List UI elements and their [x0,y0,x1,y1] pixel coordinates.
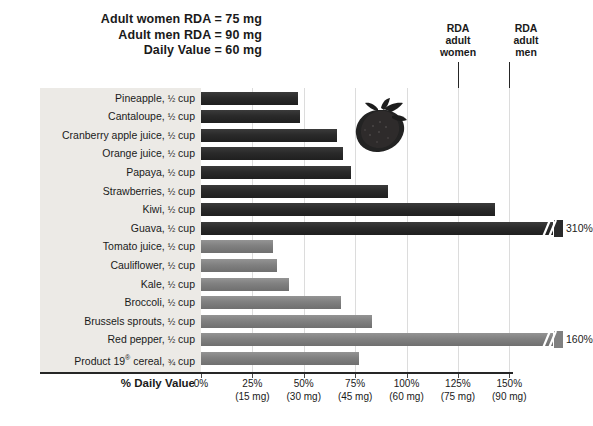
bar[interactable] [201,110,300,123]
strawberry-icon [348,96,414,156]
bar[interactable] [201,333,553,346]
bar[interactable] [201,315,372,328]
tick-milligrams: (60 mg) [379,391,435,404]
chart-header: Adult women RDA = 75 mg Adult men RDA = … [0,12,262,59]
bar[interactable] [201,352,359,365]
bar-row: Pineapple, ½ cup [0,89,593,108]
x-axis-tick-50: 50%(30 mg) [276,378,332,403]
rda-men-line3: men [487,46,565,58]
bar-category-label: Papaya, ½ cup [40,163,195,183]
bar-category-label: Strawberries, ½ cup [40,182,195,202]
bar-category-label: Cranberry apple juice, ½ cup [40,126,195,146]
bar[interactable] [201,92,298,105]
x-axis-tick-25: 25%(15 mg) [224,378,280,403]
rda-women-line2: adult [419,34,497,46]
tick-percent: 100% [379,378,435,391]
rda-women-line1: RDA [419,22,497,34]
x-axis-title: % Daily Value [40,377,195,389]
bar-row: Cranberry apple juice, ½ cup [0,126,593,145]
x-axis-tick-100: 100%(60 mg) [379,378,435,403]
tick-percent: 25% [224,378,280,391]
bar-row: Product 19® cereal, ¾ cup [0,349,593,368]
bar[interactable] [201,147,343,160]
bar-row: Kale, ½ cup [0,275,593,294]
header-line-1: Adult women RDA = 75 mg [0,12,262,28]
rda-adult-men-label: RDA adult men [487,22,565,58]
bar-category-label: Kale, ½ cup [40,275,195,295]
x-axis-tick-125: 125%(75 mg) [430,378,486,403]
tick-percent: 125% [430,378,486,391]
bar-category-label: Orange juice, ½ cup [40,144,195,164]
bar[interactable] [201,166,351,179]
bar-category-label: Pineapple, ½ cup [40,89,195,109]
bar[interactable] [201,129,337,142]
bar-row: Broccoli, ½ cup [0,293,593,312]
bar-row: Kiwi, ½ cup [0,200,593,219]
x-axis-tick-150: 150%(90 mg) [481,378,537,403]
rda-women-line3: women [419,46,497,58]
rda-men-line2: adult [487,34,565,46]
bar-row: Strawberries, ½ cup [0,182,593,201]
tick-milligrams: (90 mg) [481,391,537,404]
bar[interactable] [201,203,495,216]
bar-category-label: Tomato juice, ½ cup [40,237,195,257]
bar-row: Tomato juice, ½ cup [0,237,593,256]
bar[interactable] [201,240,273,253]
chart-root: Adult women RDA = 75 mg Adult men RDA = … [0,0,593,426]
tick-percent: 0% [173,378,229,391]
bar-value-label: 310% [566,219,593,238]
bar-row: Orange juice, ½ cup [0,144,593,163]
bar[interactable] [201,222,553,235]
axis-break-marker [541,220,563,237]
axis-break-marker [541,331,563,348]
bar-row: Brussels sprouts, ½ cup [0,312,593,331]
tick-milligrams: (15 mg) [224,391,280,404]
bar[interactable] [201,296,341,309]
x-axis-line [40,372,513,374]
bar-row: Cantaloupe, ½ cup [0,107,593,126]
bar-value-label: 160% [566,330,593,349]
rda-adult-women-label: RDA adult women [419,22,497,58]
bar-category-label: Broccoli, ½ cup [40,293,195,313]
bar-category-label: Kiwi, ½ cup [40,200,195,220]
x-axis-tick-0: 0% [173,378,229,391]
bar-category-label: Brussels sprouts, ½ cup [40,312,195,332]
bar-category-label: Guava, ½ cup [40,219,195,239]
bar-category-label: Cauliflower, ½ cup [40,256,195,276]
bar-row: Red pepper, ½ cup160% [0,330,593,349]
x-axis-tick-75: 75%(45 mg) [327,378,383,403]
bar-row: Guava, ½ cup310% [0,219,593,238]
tick-percent: 50% [276,378,332,391]
tick-percent: 75% [327,378,383,391]
bar-category-label: Product 19® cereal, ¾ cup [40,349,195,371]
header-line-3: Daily Value = 60 mg [0,43,262,59]
tick-percent: 150% [481,378,537,391]
tick-milligrams: (45 mg) [327,391,383,404]
bar-row: Cauliflower, ½ cup [0,256,593,275]
tick-milligrams: (30 mg) [276,391,332,404]
bar-row: Papaya, ½ cup [0,163,593,182]
tick-milligrams: (75 mg) [430,391,486,404]
header-line-2: Adult men RDA = 90 mg [0,28,262,44]
bar[interactable] [201,278,289,291]
bar-category-label: Red pepper, ½ cup [40,330,195,350]
bar-category-label: Cantaloupe, ½ cup [40,107,195,127]
bar[interactable] [201,185,388,198]
bar[interactable] [201,259,277,272]
rda-men-line1: RDA [487,22,565,34]
